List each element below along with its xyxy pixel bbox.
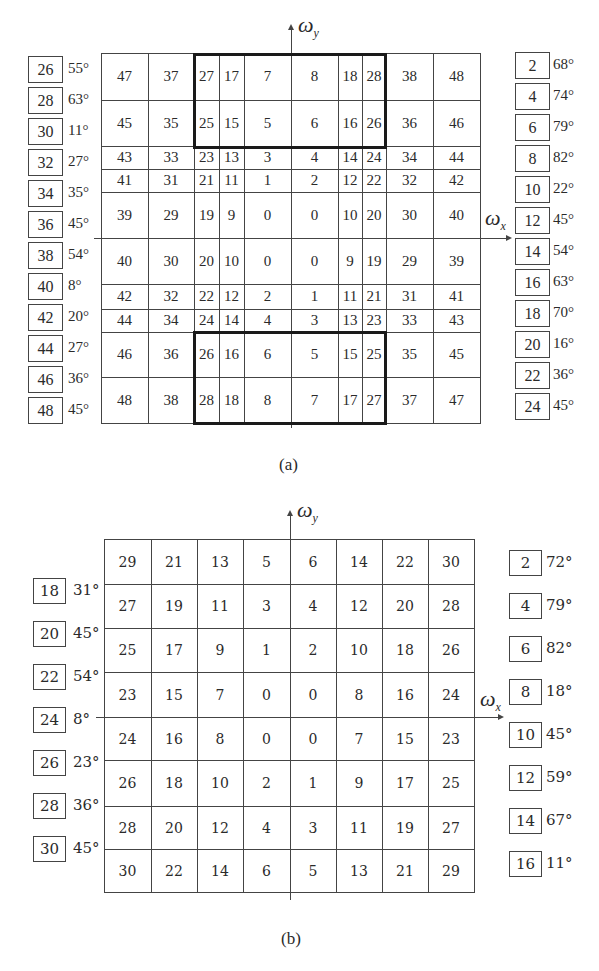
grid-line [336, 539, 337, 893]
grid-cell: 31 [148, 169, 194, 192]
grid-cell: 30 [428, 539, 474, 584]
grid-cell: 24 [428, 672, 474, 717]
grid-cell: 0 [244, 238, 291, 284]
left-legend-angle: 54° [68, 247, 89, 262]
right-legend-angle: 36° [553, 367, 574, 382]
right-legend-id: 2 [515, 52, 550, 79]
grid-cell: 43 [433, 309, 480, 332]
left-legend-id: 46 [28, 366, 63, 393]
figure-caption: (a) [279, 455, 298, 475]
grid-cell: 1 [290, 760, 336, 806]
grid-cell: 21 [194, 169, 219, 192]
grid-cell: 12 [197, 806, 243, 849]
left-legend-angle: 45° [73, 626, 100, 641]
grid-cell: 2 [291, 169, 338, 192]
grid-cell: 11 [338, 284, 362, 309]
right-legend-angle: 63° [553, 274, 574, 289]
grid-cell: 33 [386, 309, 433, 332]
grid-cell: 35 [386, 332, 433, 377]
right-legend-angle: 74° [553, 88, 574, 103]
right-legend-angle: 72° [546, 555, 573, 570]
grid-cell: 19 [194, 192, 219, 238]
grid-cell: 16 [151, 717, 197, 760]
grid-cell: 15 [151, 672, 197, 717]
left-legend-id: 20 [33, 621, 66, 647]
right-legend-angle: 45° [553, 212, 574, 227]
right-legend-id: 16 [515, 269, 550, 296]
grid-cell: 7 [197, 672, 243, 717]
grid-cell: 46 [433, 100, 480, 146]
y-axis-symbol: ω [298, 12, 314, 37]
grid-cell: 16 [382, 672, 428, 717]
grid-cell: 6 [290, 539, 336, 584]
grid-cell: 46 [101, 332, 148, 377]
grid-cell: 30 [104, 849, 151, 892]
grid-cell: 9 [219, 192, 244, 238]
right-legend-angle: 82° [553, 150, 574, 165]
grid-cell: 27 [104, 584, 151, 628]
right-legend-id: 12 [515, 207, 550, 234]
grid-cell: 9 [197, 628, 243, 672]
left-legend-id: 28 [28, 87, 63, 114]
right-legend-id: 16 [509, 851, 542, 877]
left-legend-angle: 20° [68, 309, 89, 324]
grid-cell: 36 [148, 332, 194, 377]
grid-cell: 20 [151, 806, 197, 849]
grid-cell: 32 [148, 284, 194, 309]
grid-cell: 6 [243, 849, 290, 892]
grid-cell: 22 [362, 169, 386, 192]
grid-cell: 5 [290, 849, 336, 892]
grid-line [151, 539, 152, 893]
right-legend-id: 6 [509, 636, 542, 662]
grid-cell: 32 [386, 169, 433, 192]
grid-cell: 37 [386, 377, 433, 423]
left-legend-angle: 27° [68, 340, 89, 355]
grid-cell: 0 [243, 717, 290, 760]
grid-cell: 48 [433, 53, 480, 100]
grid-cell: 4 [243, 806, 290, 849]
right-legend-angle: 22° [553, 181, 574, 196]
grid-cell: 10 [336, 628, 382, 672]
grid-cell: 12 [219, 284, 244, 309]
highlight-region [193, 53, 387, 149]
grid-cell: 29 [428, 849, 474, 892]
grid-cell: 19 [382, 806, 428, 849]
grid-cell: 24 [194, 309, 219, 332]
right-legend-angle: 11° [546, 856, 573, 871]
right-legend-id: 14 [509, 808, 542, 834]
right-legend-id: 10 [509, 722, 542, 748]
right-legend-id: 22 [515, 362, 550, 389]
grid-cell: 45 [433, 332, 480, 377]
grid-cell: 3 [244, 146, 291, 169]
grid-cell: 39 [101, 192, 148, 238]
grid-cell: 22 [382, 539, 428, 584]
left-legend-angle: 45° [73, 841, 100, 856]
left-legend-id: 48 [28, 397, 63, 424]
grid-line [382, 539, 383, 893]
grid-cell: 39 [433, 238, 480, 284]
right-legend-id: 10 [515, 176, 550, 203]
y-axis-arrow-icon [287, 510, 293, 516]
grid-cell: 25 [428, 760, 474, 806]
grid-cell: 48 [101, 377, 148, 423]
grid-line [428, 539, 429, 893]
right-legend-angle: 79° [553, 119, 574, 134]
grid-cell: 26 [428, 628, 474, 672]
grid-cell: 47 [433, 377, 480, 423]
grid-cell: 25 [104, 628, 151, 672]
left-legend-id: 42 [28, 304, 63, 331]
grid-cell: 21 [151, 539, 197, 584]
grid-cell: 9 [338, 238, 362, 284]
left-legend-angle: 55° [68, 61, 89, 76]
right-legend-id: 20 [515, 331, 550, 358]
grid-cell: 13 [336, 849, 382, 892]
grid-cell: 40 [101, 238, 148, 284]
grid-cell: 14 [197, 849, 243, 892]
grid-cell: 0 [290, 672, 336, 717]
grid-cell: 24 [362, 146, 386, 169]
right-legend-angle: 18° [546, 684, 573, 699]
left-legend-angle: 36° [73, 798, 100, 813]
grid-cell: 0 [244, 192, 291, 238]
left-legend-angle: 36° [68, 371, 89, 386]
grid-cell: 31 [386, 284, 433, 309]
